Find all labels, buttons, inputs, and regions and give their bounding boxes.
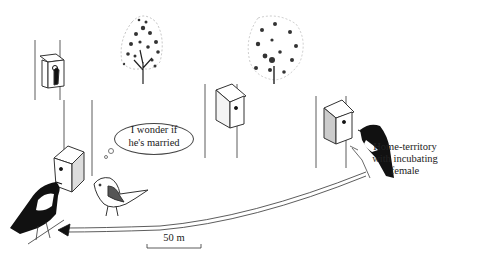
thought-line-2: he's married (114, 137, 194, 150)
male-bird-secondary-icon (10, 182, 64, 244)
thought-bubble-text: I wonder if he's married (114, 124, 194, 149)
home-label-line-3: female (362, 165, 448, 177)
nestbox-far-left-icon (35, 40, 64, 100)
thought-dot-small (104, 155, 108, 159)
home-territory-label: Home-territory with incubating female (362, 141, 448, 177)
scale-bar-icon (147, 244, 201, 248)
nestbox-center-icon (205, 84, 246, 158)
home-label-line-2: with incubating (362, 153, 448, 165)
scale-bar-label: 50 m (146, 232, 202, 243)
nestbox-home-icon (316, 96, 354, 168)
tree-left-icon (121, 16, 162, 84)
home-label-line-1: Home-territory (362, 141, 448, 153)
nestbox-foreground-icon (54, 100, 92, 192)
female-bird-icon (94, 178, 148, 216)
illustration-canvas (0, 0, 477, 260)
tree-right-icon (248, 16, 303, 84)
thought-line-1: I wonder if (114, 124, 194, 137)
